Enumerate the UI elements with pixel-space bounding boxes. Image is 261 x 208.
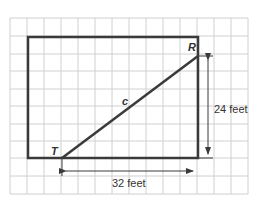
vertex-label-t: T bbox=[51, 145, 59, 157]
rectangle bbox=[28, 37, 198, 158]
grid bbox=[10, 18, 248, 194]
horizontal-dimension-label: 32 feet bbox=[112, 177, 146, 189]
hypotenuse-label: c bbox=[122, 95, 128, 107]
diagram-canvas: R T c 24 feet 32 feet bbox=[0, 0, 261, 208]
vertex-label-r: R bbox=[188, 41, 196, 53]
vertical-dimension-label: 24 feet bbox=[214, 103, 248, 115]
